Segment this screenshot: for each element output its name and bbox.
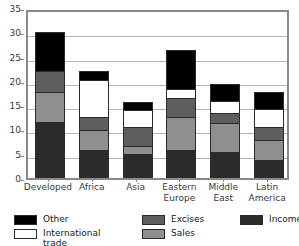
bar-segment[interactable] <box>166 89 196 99</box>
bar-segment[interactable] <box>254 140 284 160</box>
y-tick-mark <box>20 10 24 11</box>
y-tick-mark <box>20 156 24 157</box>
legend-column: ExcisesSales <box>142 214 204 242</box>
y-tick-mark <box>20 131 24 132</box>
legend-entry[interactable]: Excises <box>142 214 204 225</box>
legend-label: Sales <box>171 228 195 238</box>
bar-segment[interactable] <box>254 92 284 109</box>
y-tick-mark <box>20 107 24 108</box>
legend-swatch <box>142 215 165 225</box>
bar-segment[interactable] <box>123 102 153 110</box>
plot-area <box>26 10 289 180</box>
stacked-bar-chart: 05101520253035 DevelopedAfricaAsiaEaster… <box>0 0 299 246</box>
x-tick-mark <box>48 178 49 182</box>
legend-label: Other <box>43 214 69 224</box>
x-tick-label-line: America <box>239 193 295 204</box>
bar-segment[interactable] <box>166 117 196 151</box>
y-tick-mark <box>20 180 24 181</box>
bar-column[interactable] <box>79 8 109 178</box>
bar-segment[interactable] <box>254 127 284 140</box>
legend-entry[interactable]: Sales <box>142 228 204 239</box>
legend-column: Income <box>240 214 299 228</box>
legend-column: OtherInternational trade <box>14 214 100 246</box>
bar-segment[interactable] <box>254 160 284 178</box>
bar-column[interactable] <box>210 8 240 178</box>
bar-segment[interactable] <box>166 150 196 178</box>
x-tick-label-line: Latin <box>239 182 295 193</box>
bars-layer <box>28 12 287 178</box>
y-tick-mark <box>20 34 24 35</box>
chart-legend: OtherInternational tradeExcisesSalesInco… <box>14 214 299 246</box>
x-tick-mark <box>267 178 268 182</box>
legend-swatch <box>14 229 37 239</box>
bar-segment[interactable] <box>210 101 240 114</box>
x-axis: DevelopedAfricaAsiaEasternEuropeMiddleEa… <box>26 182 289 216</box>
bar-segment[interactable] <box>35 122 65 178</box>
bar-segment[interactable] <box>210 123 240 152</box>
bar-segment[interactable] <box>79 130 109 149</box>
bar-segment[interactable] <box>35 92 65 123</box>
bar-segment[interactable] <box>123 154 153 178</box>
x-tick-label: LatinAmerica <box>239 182 295 203</box>
x-tick-mark <box>179 178 180 182</box>
y-tick-mark <box>20 83 24 84</box>
bar-segment[interactable] <box>79 80 109 116</box>
legend-label: International trade <box>43 228 100 246</box>
legend-entry[interactable]: Income <box>240 214 299 225</box>
bar-column[interactable] <box>123 8 153 178</box>
bar-column[interactable] <box>35 8 65 178</box>
bar-segment[interactable] <box>210 84 240 101</box>
bar-segment[interactable] <box>35 32 65 71</box>
x-tick-mark <box>223 178 224 182</box>
legend-swatch <box>14 215 37 225</box>
y-tick-mark <box>20 59 24 60</box>
legend-label: Excises <box>171 214 204 224</box>
legend-swatch <box>240 215 263 225</box>
y-axis: 05101520253035 <box>0 0 24 190</box>
legend-entry[interactable]: Other <box>14 214 100 225</box>
bar-segment[interactable] <box>123 146 153 153</box>
legend-swatch <box>142 229 165 239</box>
legend-entry[interactable]: International trade <box>14 228 100 246</box>
bar-segment[interactable] <box>166 98 196 116</box>
bar-segment[interactable] <box>79 71 109 80</box>
bar-segment[interactable] <box>123 110 153 127</box>
bar-segment[interactable] <box>35 71 65 91</box>
legend-label: Income <box>269 214 299 224</box>
x-tick-mark <box>92 178 93 182</box>
bar-segment[interactable] <box>254 109 284 127</box>
bar-segment[interactable] <box>166 50 196 89</box>
bar-segment[interactable] <box>123 127 153 146</box>
bar-segment[interactable] <box>210 113 240 123</box>
bar-column[interactable] <box>254 8 284 178</box>
bar-segment[interactable] <box>210 152 240 178</box>
x-tick-mark <box>136 178 137 182</box>
bar-column[interactable] <box>166 8 196 178</box>
bar-segment[interactable] <box>79 117 109 131</box>
bar-segment[interactable] <box>79 150 109 178</box>
